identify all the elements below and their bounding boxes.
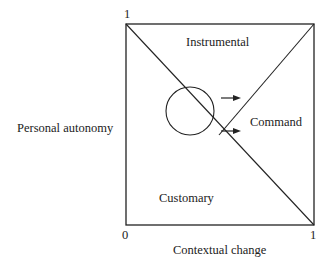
y-axis-label: Personal autonomy [17,122,113,135]
x-axis-label: Contextual change [173,244,266,257]
region-label-customary: Customary [159,192,214,205]
y-axis-max-tick: 1 [124,8,130,21]
x-axis-max-tick: 1 [310,229,316,242]
region-label-instrumental: Instrumental [186,36,249,49]
region-label-command: Command [250,116,302,129]
x-axis-min-tick: 0 [122,229,128,242]
arrow-right-icon [221,95,241,101]
